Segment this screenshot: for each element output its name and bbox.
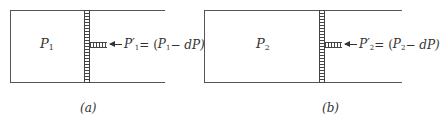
cylinder-top-wall [204, 10, 402, 11]
external-pressure-equation: P′2 = ( P2 − dP) [345, 37, 440, 52]
cylinder-end-wall [204, 10, 205, 83]
piston-rod [90, 42, 107, 48]
caption-a: (a) [80, 101, 97, 115]
arrow-left-icon [110, 44, 122, 45]
caption-b: (b) [322, 101, 339, 115]
external-pressure-equation: P′1 = ( P1 − dP) [110, 37, 205, 52]
cylinder-end-wall [10, 10, 11, 83]
arrow-left-icon [345, 44, 357, 45]
piston-rod [325, 42, 342, 48]
pressure-label-p2: P2 [256, 36, 270, 52]
pressure-label-p1: P1 [40, 36, 54, 52]
cylinder-bottom-wall [204, 82, 402, 83]
